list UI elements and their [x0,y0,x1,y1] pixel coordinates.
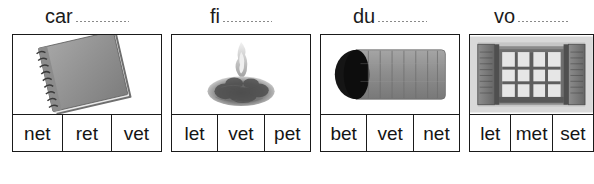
word-option[interactable]: let [172,115,218,151]
word-option[interactable]: vet [367,115,413,151]
dotted-blank-line-4[interactable] [517,19,569,22]
word-option[interactable]: vet [112,115,161,151]
word-option[interactable]: net [13,115,63,151]
word-option[interactable]: ret [63,115,113,151]
exercise-panel-4: vo [469,0,594,152]
spiral-notebook-photo [13,35,161,115]
word-choice-row-3: bet vet net [321,115,459,151]
word-option[interactable]: let [470,115,511,151]
word-choice-row-1: net ret vet [13,115,161,151]
picture-word-card-4: let met set [469,34,594,152]
syllable-prompt-1: car [12,0,162,34]
picture-word-card-2: let vet pet [171,34,311,152]
word-option[interactable]: met [511,115,552,151]
syllable-prompt-4: vo [469,0,594,34]
window-shutters-photo [470,35,593,115]
dotted-blank-line-2[interactable] [222,19,272,22]
word-choice-row-4: let met set [470,115,593,151]
dotted-blank-line-3[interactable] [377,19,427,22]
picture-word-card-3: bet vet net [320,34,460,152]
exercise-panel-3: du [320,0,460,152]
exercise-panel-2: fi [171,0,311,152]
exercise-panel-1: car [12,0,162,152]
syllable-prompt-3: du [320,0,460,34]
campfire-photo [172,35,310,115]
syllable-text-2: fi [210,6,220,26]
dotted-blank-line-1[interactable] [75,19,129,22]
syllable-text-1: car [45,6,73,26]
word-option[interactable]: net [414,115,459,151]
word-option[interactable]: bet [321,115,367,151]
worksheet: car [0,0,594,184]
word-option[interactable]: set [553,115,593,151]
word-option[interactable]: pet [265,115,310,151]
syllable-prompt-2: fi [171,0,311,34]
syllable-text-4: vo [494,6,515,26]
word-option[interactable]: vet [218,115,264,151]
sleeping-bag-photo [321,35,459,115]
picture-word-card-1: net ret vet [12,34,162,152]
word-choice-row-2: let vet pet [172,115,310,151]
syllable-text-3: du [353,6,375,26]
